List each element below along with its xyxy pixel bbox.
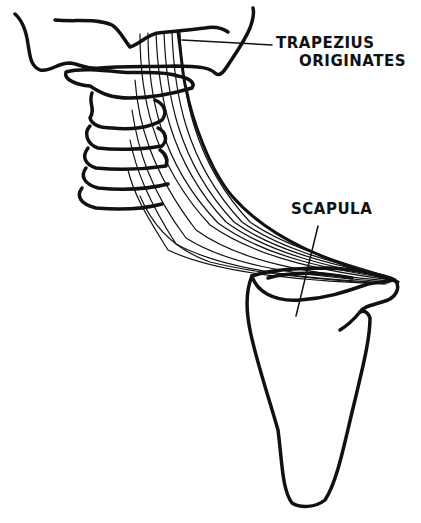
cervical-vertebrae <box>66 70 193 210</box>
scapula <box>247 268 397 506</box>
anatomy-diagram: TRAPEZIUS ORIGINATES SCAPULA <box>0 0 421 523</box>
trapezius-label-line1: TRAPEZIUS <box>276 34 375 52</box>
trapezius-label-line2: ORIGINATES <box>299 52 406 70</box>
scapula-label: SCAPULA <box>291 200 372 218</box>
trapezius-leader-line <box>182 40 272 45</box>
trapezius-scapula-illustration <box>0 0 421 523</box>
scapula-leader-line <box>296 226 318 316</box>
